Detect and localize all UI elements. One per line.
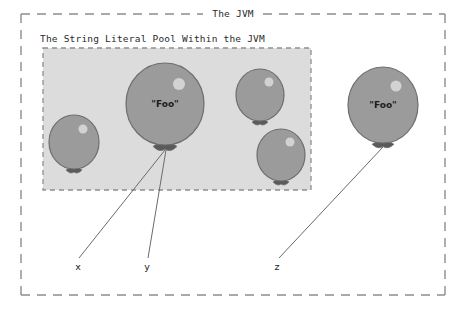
- variable-label-y: y: [144, 261, 150, 272]
- balloon-highlight: [286, 138, 295, 147]
- jvm-string-pool-diagram: The JVM The String Literal Pool Within t…: [0, 0, 465, 310]
- variable-label-z: z: [275, 261, 280, 272]
- variable-label-x: x: [75, 261, 81, 272]
- balloon-highlight: [265, 78, 274, 87]
- balloon-body: [257, 129, 305, 181]
- string-literal-pool-title: The String Literal Pool Within the JVM: [40, 33, 265, 44]
- balloon-highlight: [391, 81, 402, 92]
- variable-label-group: xyz: [75, 261, 279, 272]
- balloon-label: "Foo": [151, 99, 179, 109]
- balloon-body: [49, 115, 99, 169]
- balloon-highlight: [79, 125, 88, 134]
- balloon-highlight: [173, 78, 185, 90]
- jvm-title-label: The JVM: [212, 8, 254, 19]
- balloon-body: [236, 69, 284, 121]
- diagram-canvas: The JVM The String Literal Pool Within t…: [0, 0, 465, 310]
- balloon: "Foo": [348, 67, 418, 148]
- balloon-label: "Foo": [369, 100, 397, 110]
